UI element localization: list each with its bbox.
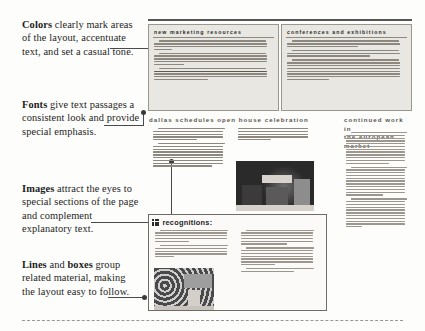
heading-dallas-open-house: dallas schedules open house celebration: [149, 116, 324, 123]
heading-recognitions: recognitions:: [162, 218, 212, 227]
paragraph: [346, 167, 408, 196]
heading-european-market-line1: continued work in: [344, 116, 412, 133]
paragraph: [155, 245, 231, 257]
recognitions-header: recognitions:: [151, 217, 324, 230]
heading-new-marketing-resources: new marketing resources: [152, 28, 275, 38]
box-recognitions: recognitions:: [148, 214, 327, 311]
grid-icon: [152, 219, 159, 226]
annotation-keyword-images: Images: [22, 183, 54, 194]
paragraph: [241, 268, 317, 272]
annotation-keyword-colors: Colors: [22, 19, 52, 30]
paragraph: [287, 59, 406, 80]
figure-canvas: Colors clearly mark areas of the layout,…: [0, 0, 425, 331]
box-conferences-and-exhibitions: conferences and exhibitions DI has exhib…: [281, 24, 412, 111]
paragraph: [238, 128, 312, 140]
paragraph: [287, 40, 406, 47]
paragraph: [241, 230, 317, 245]
bottom-dashed-divider: [22, 320, 403, 321]
heading-rule: [153, 37, 274, 38]
heading-rule: [286, 37, 407, 38]
paragraph: [154, 68, 273, 80]
newsletter-page: new marketing resources Design Internati…: [148, 19, 412, 311]
annotation-connector-lines: and: [47, 259, 68, 270]
column-european-market: The London office continues to expand it…: [344, 132, 410, 230]
paragraph: [155, 230, 231, 242]
paragraph: [346, 198, 408, 227]
paragraph: [241, 247, 317, 265]
interior-photo-middle: [236, 161, 314, 211]
annotation-keyword-fonts: Fonts: [22, 99, 47, 110]
leader-line-boxes: [108, 297, 144, 298]
annotation-images: Images attract the eyes to special secti…: [22, 182, 140, 236]
annotation-keyword-lines: Lines: [22, 259, 47, 270]
recognitions-columns: The Toronto office is pleased to announc…: [151, 230, 324, 275]
annotation-fonts: Fonts give text passages a consistent lo…: [22, 98, 140, 138]
annotation-lines: Lines and boxes group related material, …: [22, 258, 140, 298]
annotation-keyword-boxes: boxes: [67, 259, 92, 270]
recognitions-column-right: The Spring 2000 issue of Real Estate Mag…: [239, 230, 319, 275]
box-new-marketing-resources: new marketing resources Design Internati…: [148, 24, 279, 111]
interior-photo-recognitions: [154, 268, 214, 311]
leader-dot-fonts: [141, 110, 146, 115]
leader-line-fonts: [104, 125, 144, 126]
paragraph: [153, 128, 227, 140]
column-dallas-left: The Dallas office will be hosting an Ope…: [151, 128, 229, 169]
leader-dot-boxes: [142, 295, 147, 300]
paragraph: [154, 53, 273, 65]
paragraph: [153, 143, 227, 167]
recognitions-column-left: The Toronto office is pleased to announc…: [153, 230, 233, 275]
heading-conferences-and-exhibitions: conferences and exhibitions: [285, 28, 408, 38]
page-top-rule: [148, 19, 412, 21]
paragraph: [154, 40, 273, 50]
annotation-colors: Colors clearly mark areas of the layout,…: [22, 18, 140, 58]
paragraph: [287, 50, 406, 57]
paragraph: [346, 132, 408, 164]
column-dallas-right: In filling an possible, industry, the co…: [236, 128, 314, 143]
